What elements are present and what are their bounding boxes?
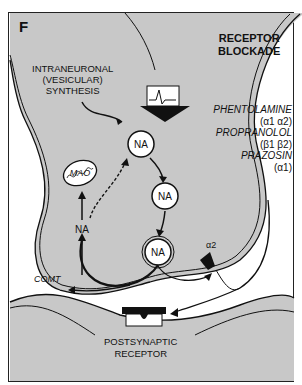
- vesicle-label: NA: [151, 247, 165, 258]
- drug-list: PHENTOLAMINE (α1 α2) PROPRANOLOL (β1 β2)…: [213, 104, 292, 173]
- postsynaptic-label: POSTSYNAPTIC RECEPTOR: [104, 336, 177, 360]
- drug-name: PHENTOLAMINE: [213, 104, 292, 116]
- vesicle-label: NA: [134, 139, 148, 150]
- drug-name: PRAZOSIN: [213, 150, 292, 162]
- mao-label: MAO: [70, 168, 91, 178]
- synthesis-label: INTRANEURONAL (VESICULAR) SYNTHESIS: [32, 63, 113, 96]
- drug-name: PROPRANOLOL: [213, 127, 292, 139]
- comt-label: COMT: [34, 274, 61, 285]
- title: RECEPTOR BLOCKADE: [218, 32, 280, 58]
- panel-label: F: [19, 18, 28, 35]
- vesicle-label: NA: [158, 191, 172, 202]
- drug-targets: (α1): [213, 162, 292, 174]
- drug-targets: (α1 α2): [213, 116, 292, 128]
- cytoplasmic-na-label: NA: [75, 224, 89, 235]
- drug-targets: (β1 β2): [213, 139, 292, 151]
- alpha2-label: α2: [206, 240, 216, 251]
